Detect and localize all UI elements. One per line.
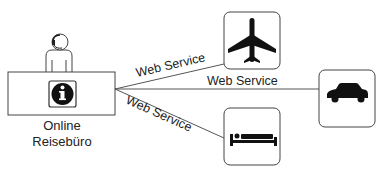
info-icon[interactable] [49, 81, 76, 107]
web-service-label-car: Web Service [207, 74, 278, 88]
center-caption: Online Reisebüro [20, 118, 104, 150]
caption-line1: Online [20, 118, 104, 134]
flight-service-box[interactable] [224, 12, 280, 69]
web-service-label-flight: Web Service [135, 50, 207, 80]
car-rental-service-box[interactable] [319, 70, 375, 127]
agent-with-headset-icon [46, 34, 72, 72]
web-service-label-hotel: Web Service [124, 93, 194, 135]
caption-line2: Reisebüro [20, 134, 104, 150]
hotel-service-box[interactable] [224, 108, 280, 165]
